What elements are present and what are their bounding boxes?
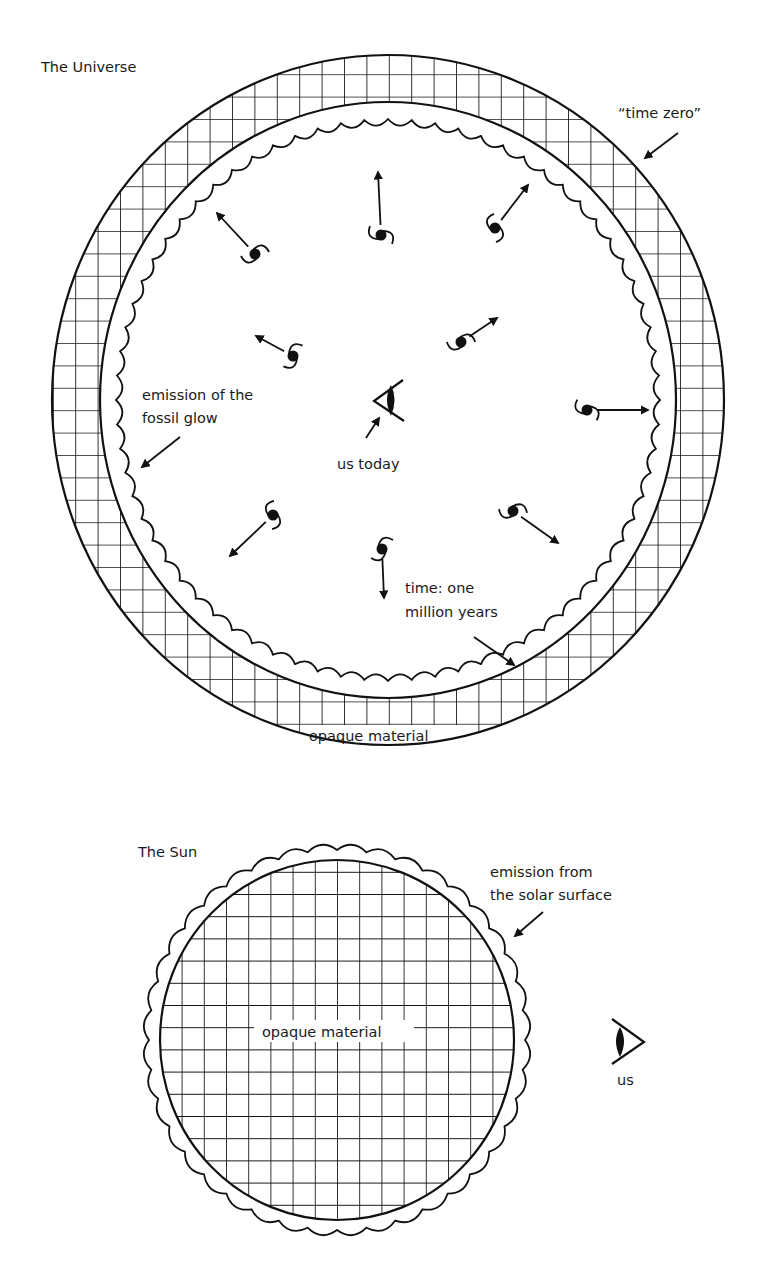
solar-emission-label-line1: emission from (490, 864, 593, 880)
time-zero-label: “time zero” (618, 105, 701, 121)
recession-arrow (230, 522, 266, 556)
galaxy-icon (262, 500, 285, 531)
solar-emission-arrow (515, 912, 543, 936)
us-today-label: us today (337, 456, 400, 472)
sun-opaque-label: opaque material (262, 1024, 381, 1040)
fossil-glow-arrow (142, 437, 180, 467)
recession-arrow (382, 559, 384, 598)
galaxies (217, 172, 648, 598)
recession-arrow (521, 517, 558, 543)
galaxy-icon (277, 341, 310, 372)
fossil-glow-label-line2: fossil glow (142, 410, 218, 426)
sun-diagram: The Sun opaque material emission from th… (137, 844, 644, 1235)
us-today-arrow (366, 418, 379, 438)
solar-emission-label-line2: the solar surface (490, 887, 612, 903)
time-zero-arrow (645, 133, 678, 158)
recession-arrow (256, 336, 284, 351)
galaxy-icon (241, 245, 269, 262)
time-label-line2: million years (405, 604, 498, 620)
sun-opaque-core (160, 860, 514, 1220)
recession-arrow (217, 213, 248, 247)
universe-title: The Universe (40, 59, 136, 75)
cosmic-background-diagram: The Universe us today “time zero” emissi… (0, 0, 762, 1265)
universe-diagram: The Universe us today “time zero” emissi… (40, 55, 724, 745)
time-arrow (474, 637, 514, 665)
recession-arrow (469, 318, 497, 337)
sun-title: The Sun (137, 844, 197, 860)
fossil-glow-label-line1: emission of the (142, 387, 253, 403)
recession-arrow (378, 172, 381, 225)
universe-opaque-label: opaque material (309, 728, 428, 744)
galaxy-icon (485, 213, 504, 242)
observer-eye-icon (612, 1019, 644, 1064)
observer-label: us (617, 1072, 634, 1088)
recession-arrow (501, 185, 528, 220)
eye-icon (374, 380, 404, 421)
time-label-line1: time: one (405, 580, 474, 596)
